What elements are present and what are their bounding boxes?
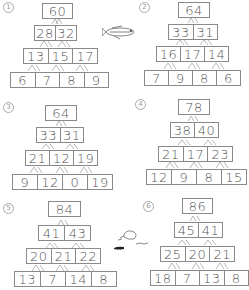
arrow-icon bbox=[0, 0, 125, 95]
arrow-icon bbox=[124, 0, 249, 95]
arrow-icon bbox=[124, 95, 249, 190]
arrow-icon bbox=[124, 190, 249, 290]
arrow-icon bbox=[0, 195, 125, 290]
fish-icon bbox=[102, 24, 138, 42]
arrow-icon bbox=[0, 100, 125, 195]
